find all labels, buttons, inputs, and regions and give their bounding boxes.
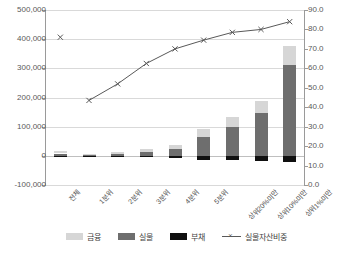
legend-label: 부채 (191, 231, 205, 242)
legend-item[interactable]: 실물 (118, 231, 153, 242)
secondary-y-tick-label: 0.0 (308, 181, 352, 189)
legend-line-marker-icon (222, 233, 241, 240)
primary-y-tick-label: 500,000 (2, 6, 46, 14)
legend-label: 실물 (139, 231, 153, 242)
secondary-y-tick-label: 70.0 (308, 45, 352, 53)
x-tick-label: 상위10%미만 (276, 189, 309, 222)
primary-y-tick-label: -100,000 (2, 181, 46, 189)
primary-y-tick-label: 100,000 (2, 123, 46, 131)
secondary-y-tick-label: 20.0 (308, 142, 352, 150)
secondary-y-tick-label: 50.0 (308, 84, 352, 92)
x-tick-label: 1분위 (98, 189, 115, 206)
x-tick-label: 전체 (68, 189, 82, 203)
chart-container: -100,0000100,000200,000300,000400,000500… (0, 0, 353, 257)
x-tick-label: 3분위 (155, 189, 172, 206)
x-tick-label: 상위20%미만 (247, 189, 280, 222)
x-tick-label: 5분위 (212, 189, 229, 206)
primary-y-tick-label: 0 (2, 152, 46, 160)
x-tick-label: 2분위 (126, 189, 143, 206)
legend-swatch (170, 233, 187, 240)
x-tick-label: 4분위 (184, 189, 201, 206)
secondary-y-tick-label: 10.0 (308, 162, 352, 170)
primary-y-tick-label: 300,000 (2, 64, 46, 72)
secondary-y-tick-label: 30.0 (308, 123, 352, 131)
line-path (89, 22, 290, 101)
legend-item[interactable]: 부채 (170, 231, 205, 242)
primary-y-tick-label: 200,000 (2, 94, 46, 102)
line-series-realasset-ratio (46, 10, 304, 185)
legend-item[interactable]: 금융 (66, 231, 101, 242)
gridline (46, 185, 304, 186)
line-marker-x (144, 61, 149, 66)
primary-y-tick-label: 400,000 (2, 35, 46, 43)
plot-area (46, 10, 304, 185)
secondary-y-tick-label: 40.0 (308, 103, 352, 111)
line-marker-x (115, 81, 120, 86)
legend-swatch (118, 233, 135, 240)
secondary-y-axis (304, 10, 305, 185)
line-marker-x (86, 98, 91, 103)
legend-label: 금융 (87, 231, 101, 242)
secondary-y-tick-label: 80.0 (308, 25, 352, 33)
secondary-y-tick-label: 90.0 (308, 6, 352, 14)
line-marker-x (58, 35, 63, 40)
legend-item[interactable]: 실물자산비중 (222, 231, 287, 242)
chart-legend: 금융실물부채실물자산비중 (0, 231, 353, 242)
secondary-y-tick-label: 60.0 (308, 64, 352, 72)
line-marker-x (172, 46, 177, 51)
legend-label: 실물자산비중 (245, 231, 287, 242)
legend-swatch (66, 233, 83, 240)
